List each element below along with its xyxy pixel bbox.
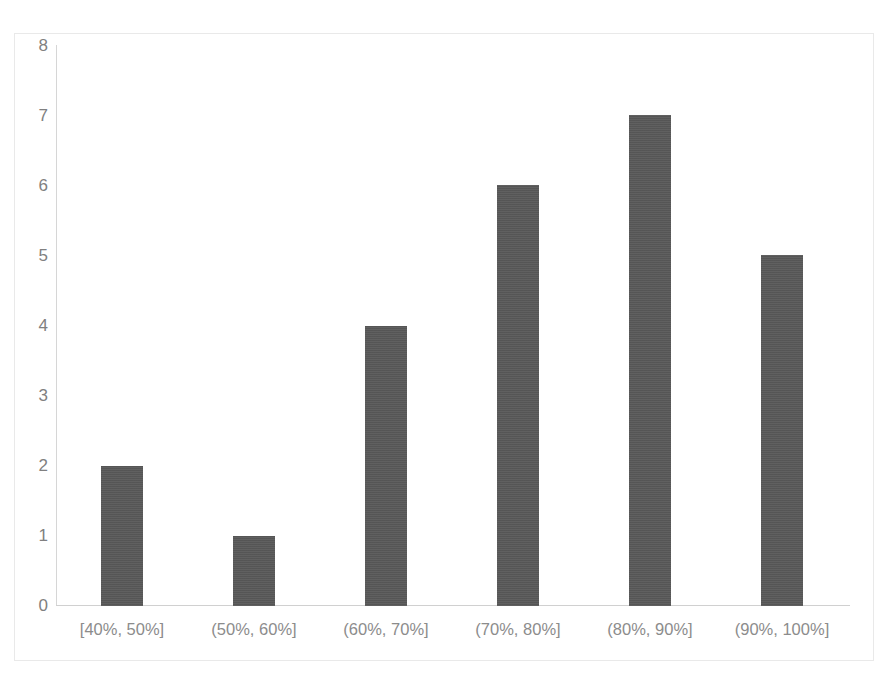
x-tick-label: (70%, 80%]	[452, 620, 584, 640]
y-tick-label: 0	[4, 597, 48, 614]
y-tick-label: 3	[4, 387, 48, 404]
y-tick-label: 5	[4, 247, 48, 264]
x-tick-label: (80%, 90%]	[584, 620, 716, 640]
y-tick-label: 2	[4, 457, 48, 474]
y-tick-label: 7	[4, 107, 48, 124]
y-tick-label: 8	[4, 37, 48, 54]
x-tick-label: [40%, 50%]	[56, 620, 188, 640]
value-axis-tick-labels: 8 7 6 5 4 3 2 1 0	[0, 0, 48, 678]
y-tick-label: 6	[4, 177, 48, 194]
x-tick-label: (50%, 60%]	[188, 620, 320, 640]
x-tick-label: (60%, 70%]	[320, 620, 452, 640]
y-tick-label: 1	[4, 527, 48, 544]
y-tick-label: 4	[4, 317, 48, 334]
bar-chart: 8 7 6 5 4 3 2 1 0 [40%, 50%] (50%, 60%]	[0, 0, 889, 678]
category-axis-tick-labels: [40%, 50%] (50%, 60%] (60%, 70%] (70%, 8…	[56, 0, 850, 678]
x-tick-label: (90%, 100%]	[716, 620, 848, 640]
